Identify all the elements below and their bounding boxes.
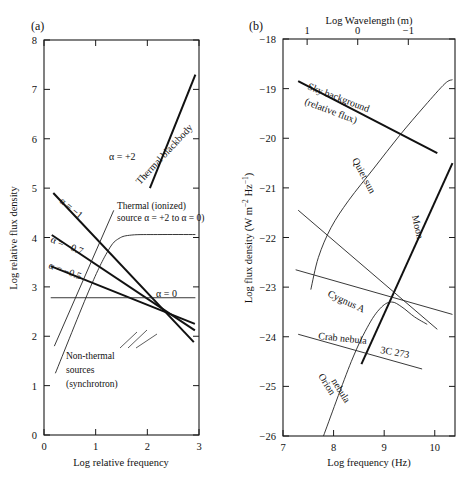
curve-orion-nebula [323, 302, 427, 436]
panel-a-ytick-label: 2 [32, 331, 37, 342]
panel-b-top-xtick-label: 1 [305, 25, 310, 36]
panel-a-ytick-label: 3 [32, 282, 37, 293]
figure-root: (a) 0123012345678 Log relative frequency… [0, 0, 467, 477]
panel-b-ytick-label: −22 [260, 233, 276, 244]
annot-nonthermal-line1: Non-thermal [66, 351, 115, 361]
annot-thermal-blackbody: Thermal blackbody [133, 122, 194, 187]
panel-b-top-xtick-label: −1 [403, 25, 414, 36]
panel-b-top-axis-title: Log Wavelength (m) [325, 15, 413, 27]
annot-quiet-sun: Quiet sun [350, 156, 378, 195]
panel-a-xtick-label: 0 [41, 441, 46, 452]
annot-alpha-zero: α = 0 [156, 288, 177, 299]
panel-b-yaxis-title: Log flux density (W m−2 Hz−1) [241, 172, 255, 303]
panel-a-xtick-label: 1 [93, 441, 98, 452]
panel-a-ytick-label: 6 [32, 134, 37, 145]
panel-a-ytick-label: 8 [32, 35, 37, 46]
panel-a-xtick-label: 2 [145, 441, 150, 452]
panel-b-top-xtick-label: 0 [355, 25, 360, 36]
panel-b: (b) 7891010−1−26−25−24−23−22−21−20−19−18… [241, 15, 455, 469]
curve-crab-nebula [296, 270, 453, 315]
curve-steep-rising-line [54, 210, 113, 346]
panel-b-xtick-label: 9 [382, 442, 387, 453]
panel-b-ytick-label: −23 [260, 282, 276, 293]
leader-line-3 [136, 334, 157, 348]
annot-alpha-minus-05: α = −0.5 [47, 260, 83, 282]
panel-a-xtick-label: 3 [196, 441, 201, 452]
panel-b-xtick-label: 8 [331, 442, 336, 453]
panel-b-xtick-label: 10 [430, 442, 441, 453]
panel-b-ytick-label: −19 [260, 84, 276, 95]
panel-a-ytick-label: 1 [32, 381, 37, 392]
panel-b-ytick-label: −20 [260, 133, 276, 144]
panel-b-tick-labels: 7891010−1−26−25−24−23−22−21−20−19−18 [260, 25, 440, 453]
panel-a-ytick-label: 4 [32, 233, 38, 244]
panel-b-xtick-label: 7 [280, 442, 285, 453]
leader-line-1 [120, 332, 137, 348]
annot-nonthermal-line3: (synchrotron) [66, 379, 118, 390]
panel-b-ytick-label: −24 [260, 332, 277, 343]
panel-b-ytick-label: −21 [260, 183, 276, 194]
annot-alpha-minus-07: α = −0.7 [49, 234, 85, 257]
panel-b-ytick-label: −26 [260, 431, 276, 442]
panel-a-ytick-label: 0 [32, 430, 37, 441]
radio-spectra-figure: (a) 0123012345678 Log relative frequency… [0, 0, 467, 477]
curve-moon [361, 163, 452, 364]
annot-nonthermal-line2: sources [66, 365, 95, 375]
leader-line-2 [128, 330, 147, 348]
annot-moon: Moon [410, 214, 426, 240]
annot-thermal-ionized-line2: source α = +2 to α = 0) [117, 213, 205, 224]
panel-b-ytick-label: −18 [260, 34, 276, 45]
panel-b-ytick-label: −25 [260, 381, 276, 392]
annot-crab-nebula: Crab nebula [318, 330, 368, 346]
annot-3c273: 3C 273 [380, 344, 411, 360]
annot-alpha-plus-2: α = +2 [109, 151, 136, 162]
panel-b-label: (b) [249, 19, 263, 33]
panel-a-ytick-label: 5 [32, 183, 37, 194]
annot-alpha-minus-1: α = −1 [58, 195, 85, 220]
panel-a-xaxis-title: Log relative frequency [73, 457, 169, 468]
panel-a-label: (a) [31, 19, 44, 33]
panel-a: (a) 0123012345678 Log relative frequency… [8, 19, 205, 468]
panel-a-curves [51, 75, 196, 374]
annot-cygnus-a: Cygnus A [326, 288, 367, 315]
panel-a-ytick-label: 7 [32, 84, 37, 95]
panel-a-yaxis-title: Log relative flux density [8, 185, 19, 289]
panel-b-xaxis-title: Log frequency (Hz) [327, 457, 411, 469]
panel-b-curves [296, 80, 453, 436]
annot-thermal-ionized-line1: Thermal (ionized) [117, 201, 186, 212]
